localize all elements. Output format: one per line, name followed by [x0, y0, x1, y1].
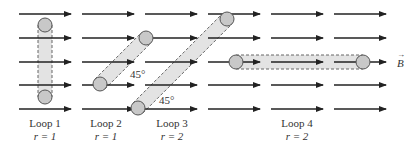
loop-name-label: Loop 2 [90, 117, 121, 129]
wire-cross-section-icon [131, 101, 145, 115]
wire-cross-section-icon [356, 55, 370, 69]
loop-name-label: Loop 1 [29, 117, 60, 129]
wire-cross-section-icon [139, 31, 153, 45]
field-label: B → [397, 50, 405, 69]
vector-arrow-icon: → [397, 50, 405, 59]
wire-cross-section-icon [220, 12, 234, 26]
loop-bands [38, 14, 363, 113]
loop-1 [38, 25, 52, 97]
wire-cross-section-icon [38, 90, 52, 104]
loop-name-label: Loop 4 [281, 117, 313, 129]
wire-cross-section-icon [93, 77, 107, 91]
loop-radius-label: r = 1 [34, 130, 57, 142]
angle-label: 45° [159, 94, 174, 106]
loop-name-label: Loop 3 [156, 117, 188, 129]
magnetic-field-loops-diagram: Loop 1r = 145°Loop 2r = 145°Loop 3r = 2L… [0, 0, 416, 150]
wire-cross-section-icon [229, 55, 243, 69]
angle-label: 45° [130, 68, 145, 80]
loop-3 [133, 14, 232, 113]
loop-radius-label: r = 2 [286, 130, 309, 142]
loop-radius-label: r = 2 [161, 130, 184, 142]
wire-cross-section-icon [38, 18, 52, 32]
loop-radius-label: r = 1 [95, 130, 118, 142]
